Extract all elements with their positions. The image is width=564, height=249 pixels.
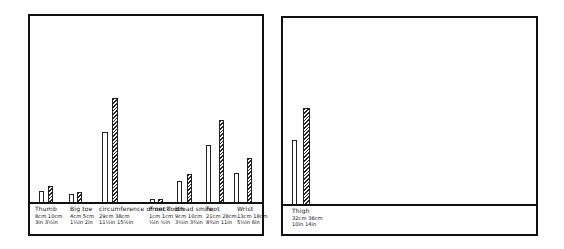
bar-open — [206, 145, 211, 204]
category-label-line1: 8cm 10cm — [35, 213, 62, 219]
bar-hatched — [219, 120, 224, 204]
right-plot-area — [283, 18, 536, 206]
left-plot-area — [30, 16, 262, 204]
category-label-line2: 5½in 6in — [237, 219, 268, 225]
bar-open — [234, 173, 239, 204]
bar-open — [177, 181, 182, 204]
bar-open — [102, 132, 108, 204]
bar-hatched — [112, 98, 118, 204]
category-label: Foot21cm 28cm8¾in 11in — [206, 206, 237, 225]
category-label-name: Wrist — [237, 206, 268, 213]
category-label-name: Big toe — [70, 206, 94, 213]
category-label-line2: 1½in 2in — [70, 219, 94, 225]
category-label-name: Thumb — [35, 206, 62, 213]
bar-hatched — [247, 158, 252, 204]
bar-hatched — [187, 174, 192, 204]
category-label-line1: 13cm 18cm — [237, 213, 268, 219]
category-label: Thigh32cm 36cm10in 14in — [292, 208, 323, 227]
category-label: Big toe4cm 5cm1½in 2in — [70, 206, 94, 225]
category-label-line2: 8¾in 11in — [206, 219, 237, 225]
right-baseline — [283, 204, 536, 206]
category-label-line2: 3in 3½in — [35, 219, 62, 225]
category-label-name: Foot — [206, 206, 237, 213]
left-chart-panel: Thumb8cm 10cm3in 3½inBig toe4cm 5cm1½in … — [28, 14, 264, 236]
left-baseline — [30, 202, 262, 204]
category-label-line1: 32cm 36cm — [292, 215, 323, 221]
category-label-line1: 4cm 5cm — [70, 213, 94, 219]
bar-hatched — [303, 108, 310, 206]
right-chart-panel: Thigh32cm 36cm10in 14in — [281, 16, 538, 236]
category-label-name: Thigh — [292, 208, 323, 215]
category-label: Thumb8cm 10cm3in 3½in — [35, 206, 62, 225]
bar-open — [292, 140, 297, 206]
category-label-line2: 10in 14in — [292, 221, 323, 227]
category-label: Wrist13cm 18cm5½in 6in — [237, 206, 268, 225]
category-label-line1: 21cm 28cm — [206, 213, 237, 219]
